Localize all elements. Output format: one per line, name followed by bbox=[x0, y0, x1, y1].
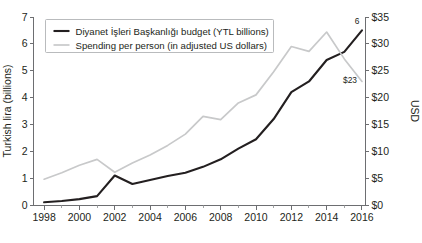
x-axis-tick-label: 2010 bbox=[244, 211, 268, 223]
x-axis-tick-label: 2016 bbox=[350, 211, 374, 223]
y-axis-left-tick-label: 4 bbox=[22, 91, 28, 103]
x-axis-tick-label: 2014 bbox=[315, 211, 339, 223]
x-axis-tick-label: 2008 bbox=[209, 211, 233, 223]
x-axis-tick-label: 2002 bbox=[103, 211, 127, 223]
y-axis-right-title: USD bbox=[409, 100, 421, 123]
y-axis-left-tick-label: 6 bbox=[22, 37, 28, 49]
chart-container: 01234567 $0$5$10$15$20$25$30$35 19982000… bbox=[0, 0, 422, 243]
x-axis-ticks: 1998200020022004200620082010201220142016 bbox=[32, 205, 373, 223]
series-group bbox=[44, 30, 362, 202]
x-axis-tick-label: 1998 bbox=[32, 211, 56, 223]
annotation-budget-value: 6 bbox=[355, 16, 360, 26]
annotation-spending-value: $23 bbox=[343, 75, 357, 85]
y-axis-right-tick-label: $25 bbox=[372, 64, 390, 76]
x-axis-tick-label: 2006 bbox=[174, 211, 198, 223]
y-axis-left-tick-label: 5 bbox=[22, 64, 28, 76]
y-axis-left-title: Turkish lira (billions) bbox=[1, 65, 13, 158]
legend-item-label: Diyanet İşleri Başkanlığı budget (YTL bi… bbox=[76, 26, 269, 37]
y-axis-right-tick-label: $20 bbox=[372, 91, 390, 103]
y-axis-right-tick-label: $35 bbox=[372, 11, 390, 23]
y-axis-right-tick-label: $15 bbox=[372, 118, 390, 130]
x-axis-tick-label: 2012 bbox=[280, 211, 304, 223]
y-axis-right-ticks: $0$5$10$15$20$25$30$35 bbox=[366, 11, 390, 211]
y-axis-right-tick-label: $10 bbox=[372, 145, 390, 157]
y-axis-right-tick-label: $30 bbox=[372, 37, 390, 49]
y-axis-left-ticks: 01234567 bbox=[22, 11, 34, 211]
legend-item-label: Spending per person (in adjusted US doll… bbox=[76, 40, 267, 51]
y-axis-left-tick-label: 7 bbox=[22, 11, 28, 23]
y-axis-left-tick-label: 1 bbox=[22, 172, 28, 184]
series-line-spending-per-person bbox=[44, 32, 362, 179]
y-axis-left-tick-label: 0 bbox=[22, 199, 28, 211]
x-axis-tick-label: 2004 bbox=[138, 211, 162, 223]
y-axis-left-tick-label: 2 bbox=[22, 145, 28, 157]
y-axis-left-tick-label: 3 bbox=[22, 118, 28, 130]
y-axis-right-tick-label: $0 bbox=[372, 199, 384, 211]
line-chart: 01234567 $0$5$10$15$20$25$30$35 19982000… bbox=[0, 0, 422, 243]
x-axis-tick-label: 2000 bbox=[68, 211, 92, 223]
y-axis-right-tick-label: $5 bbox=[372, 172, 384, 184]
legend: Diyanet İşleri Başkanlığı budget (YTL bi… bbox=[46, 20, 274, 53]
